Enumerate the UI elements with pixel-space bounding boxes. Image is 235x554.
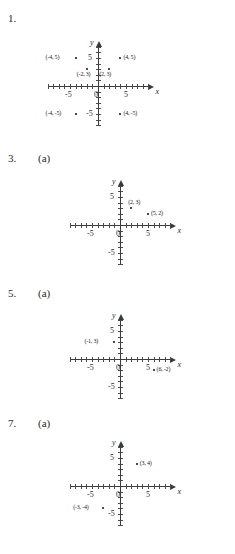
x-tick-label: 5 [146, 229, 150, 238]
y-axis-tick [118, 447, 123, 448]
x-axis-tick [76, 84, 77, 89]
y-axis-tick [96, 52, 101, 53]
x-axis-tick [137, 484, 138, 489]
y-axis-tick [118, 320, 123, 321]
y-axis-tick [118, 247, 123, 248]
problem-5: 5.(a)xy-5055-5(-1, 3)(6, -2) [0, 275, 235, 405]
y-tick-label: -5 [108, 248, 115, 257]
x-axis-tick [109, 484, 110, 489]
x-axis-tick [148, 223, 149, 228]
x-axis-tick [131, 357, 132, 362]
x-axis-label: x [155, 87, 159, 96]
coordinate-plane: xy-5055-5(2, 3)(5, 2) [0, 140, 235, 275]
y-axis-tick [118, 331, 123, 332]
y-tick-label: 5 [88, 53, 92, 62]
x-tick-label: 0 [94, 90, 98, 99]
x-axis-tick [126, 223, 127, 228]
y-axis-label: y [112, 177, 116, 186]
point-coordinate-label: (6, -2) [157, 366, 171, 372]
x-axis-tick [170, 357, 171, 362]
plotted-point [75, 57, 77, 59]
problem-3: 3.(a)xy-5055-5(2, 3)(5, 2) [0, 140, 235, 275]
point-coordinate-label: (2, 3) [128, 199, 140, 205]
y-axis-tick [118, 520, 123, 521]
y-axis-label: y [112, 438, 116, 447]
y-axis-tick [118, 186, 123, 187]
x-axis-tick [142, 357, 143, 362]
point-coordinate-label: (4, -5) [123, 110, 137, 116]
y-axis-tick [118, 398, 123, 399]
x-axis-tick [75, 484, 76, 489]
x-axis-tick [70, 223, 71, 228]
x-axis-tick [92, 223, 93, 228]
problem-7: 7.(a)xy-5055-5(3, 4)(-3, -4) [0, 405, 235, 554]
x-axis-tick [120, 84, 121, 89]
y-axis-tick [118, 197, 123, 198]
point-coordinate-label: (4, 5) [123, 54, 135, 60]
x-axis-tick [109, 223, 110, 228]
y-axis-tick [118, 342, 123, 343]
y-axis-tick [118, 381, 123, 382]
plotted-point [130, 207, 132, 209]
x-axis-tick [159, 484, 160, 489]
plotted-point [102, 507, 104, 509]
y-axis-tick [118, 387, 123, 388]
x-axis-tick [132, 84, 133, 89]
y-axis-tick [96, 47, 101, 48]
plotted-point [147, 213, 149, 215]
x-axis-tick [92, 357, 93, 362]
y-axis-tick [118, 191, 123, 192]
plotted-point [119, 113, 121, 115]
x-axis-tick [98, 357, 99, 362]
y-axis-tick [96, 64, 101, 65]
x-tick-label: -5 [87, 229, 94, 238]
y-axis-tick [118, 337, 123, 338]
x-axis-tick [142, 223, 143, 228]
x-tick-label: -5 [65, 90, 72, 99]
y-axis-tick [118, 219, 123, 220]
y-axis-tick [118, 464, 123, 465]
x-axis-tick [114, 357, 115, 362]
x-axis-tick [126, 84, 127, 89]
x-axis-tick [126, 484, 127, 489]
y-axis-label: y [90, 38, 94, 47]
y-axis-tick [118, 208, 123, 209]
problem-1: 1.xy-5055-5(-4, 5)(4, 5)(-2, 3)(2, 3)(-4… [0, 0, 235, 140]
y-tick-label: 5 [110, 192, 114, 201]
x-axis-tick [48, 84, 49, 89]
x-axis-tick [148, 484, 149, 489]
y-tick-label: 5 [110, 326, 114, 335]
point-coordinate-label: (5, 2) [151, 210, 163, 216]
y-tick-label: 5 [110, 453, 114, 462]
x-axis-tick [137, 357, 138, 362]
plotted-point [86, 68, 88, 70]
x-tick-label: 5 [146, 490, 150, 499]
plotted-point [108, 68, 110, 70]
coordinate-plane: xy-5055-5(-4, 5)(4, 5)(-2, 3)(2, 3)(-4, … [0, 0, 235, 140]
x-tick-label: -5 [87, 490, 94, 499]
y-axis-tick [118, 376, 123, 377]
y-axis-tick [96, 120, 101, 121]
x-tick-label: 5 [146, 363, 150, 372]
x-axis-tick [70, 84, 71, 89]
x-axis-tick [154, 357, 155, 362]
y-axis-tick [118, 214, 123, 215]
x-tick-label: 0 [116, 363, 120, 372]
x-tick-label: 0 [116, 490, 120, 499]
x-axis-tick [81, 84, 82, 89]
x-tick-label: -5 [87, 363, 94, 372]
y-axis-tick [96, 69, 101, 70]
x-axis-tick [81, 223, 82, 228]
y-axis-tick [96, 58, 101, 59]
x-axis-tick [109, 357, 110, 362]
y-tick-label: -5 [108, 509, 115, 518]
y-axis-tick [96, 114, 101, 115]
x-axis-tick [98, 223, 99, 228]
y-axis-tick [96, 80, 101, 81]
y-axis-tick [118, 458, 123, 459]
y-axis-tick [118, 203, 123, 204]
y-axis-tick [96, 108, 101, 109]
x-axis-tick [154, 223, 155, 228]
x-axis-tick [103, 223, 104, 228]
x-axis-tick [148, 357, 149, 362]
